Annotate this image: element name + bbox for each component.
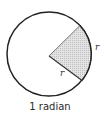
radius-label: r xyxy=(60,68,65,78)
caption: 1 radian xyxy=(0,101,100,113)
arc-length-label: r xyxy=(95,42,100,52)
radian-diagram: r r xyxy=(0,0,104,115)
